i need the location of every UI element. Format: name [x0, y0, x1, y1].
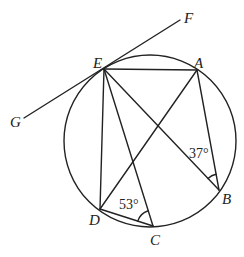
segment-ab — [197, 70, 219, 190]
point-label-a: A — [193, 55, 204, 71]
angle-arc-c — [138, 211, 148, 221]
segment-ea — [104, 69, 197, 70]
point-label-d: D — [88, 212, 100, 228]
segment-ad — [100, 70, 197, 209]
angle-label-b: 37° — [189, 146, 209, 161]
point-label-g: G — [10, 114, 21, 130]
point-label-f: F — [183, 10, 194, 26]
segment-ed — [100, 69, 104, 209]
point-label-e: E — [92, 55, 102, 71]
angle-label-c: 53° — [119, 197, 139, 212]
geometry-figure: E A B C D F G 53° 37° — [0, 0, 244, 257]
point-label-c: C — [150, 232, 161, 248]
segments — [24, 20, 219, 226]
point-label-b: B — [222, 191, 231, 207]
angle-arc-b — [208, 174, 216, 178]
segment-eb — [104, 69, 219, 190]
